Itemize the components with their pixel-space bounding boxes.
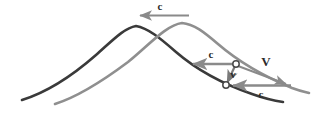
big-V-label: V [261,54,271,69]
diagram-canvas: c c v V c [0,0,315,118]
upper-point-marker [233,61,239,67]
wave-velocity-diagram: c c v V c [0,0,315,118]
top-c-label: c [158,0,163,12]
light-wave-profile-curve [55,23,309,104]
small-v-label: v [230,68,236,80]
lower-c-label: c [259,88,264,100]
lower-point-marker [223,82,229,88]
upper-c-label: c [209,48,214,60]
